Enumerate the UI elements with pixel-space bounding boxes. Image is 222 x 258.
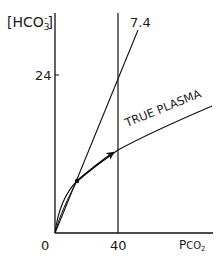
curve-label: TRUE PLASMA: [122, 86, 203, 130]
isopleth-label: 7.4: [130, 15, 151, 30]
intersection-dot: [75, 179, 79, 183]
y-tick-label-24: 24: [35, 68, 52, 83]
isopleth-line-7-4: [55, 30, 138, 233]
y-axis-label: [HCO3-]: [7, 14, 53, 32]
x-tick-label-40: 40: [110, 238, 127, 253]
chart-figure: [HCO3-] 24 0 40 PCO2 7.4 TRUE PLASMA: [0, 0, 222, 258]
x-axis-label: PCO2: [179, 238, 206, 253]
x-tick-label-0: 0: [41, 238, 49, 253]
